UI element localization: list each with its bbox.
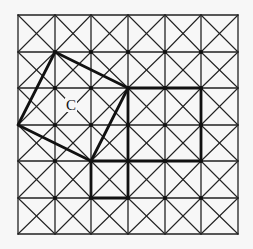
intersection-dot [126,50,130,54]
intersection-dot [53,123,57,127]
label-c: C [66,97,76,113]
intersection-dot [89,86,93,90]
intersection-dot [53,159,57,163]
intersection-dot [53,196,57,200]
grid-diagram: C [0,0,253,249]
intersection-dot [89,50,93,54]
intersection-dot [89,123,93,127]
intersection-dot [163,196,167,200]
intersection-dot [53,86,57,90]
labels: C [65,97,77,113]
intersection-dot [199,50,203,54]
intersection-dot [199,196,203,200]
intersection-dot [163,123,167,127]
intersection-dot [163,50,167,54]
